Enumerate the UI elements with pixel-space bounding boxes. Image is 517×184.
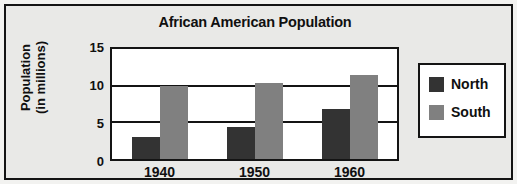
chart-legend: North South	[418, 63, 506, 138]
bar-north-1950	[227, 127, 255, 159]
legend-item-north: North	[429, 77, 488, 92]
legend-item-south: South	[429, 105, 491, 120]
x-axis-ticks: 1940 1950 1960	[110, 163, 399, 184]
bar-south-1940	[160, 86, 188, 159]
legend-label-south: South	[451, 105, 491, 120]
legend-label-north: North	[451, 77, 488, 92]
y-tick-label: 0	[64, 155, 104, 168]
y-axis-ticks: 15 10 5 0	[62, 47, 104, 161]
chart-panel: African American Population Population (…	[4, 4, 513, 180]
chart-figure: African American Population Population (…	[0, 0, 517, 184]
y-axis-title-line1: Population	[19, 18, 34, 138]
bar-south-1960	[350, 75, 378, 159]
legend-swatch-north-icon	[429, 77, 444, 92]
bar-south-1950	[255, 83, 283, 159]
x-tick-label: 1950	[225, 163, 285, 181]
bar-north-1960	[322, 109, 350, 159]
bars-layer	[112, 49, 397, 159]
y-tick-label: 15	[64, 41, 104, 54]
bar-north-1940	[132, 137, 160, 159]
x-tick-label: 1960	[320, 163, 380, 181]
x-tick-label: 1940	[130, 163, 190, 181]
legend-swatch-south-icon	[429, 105, 444, 120]
chart-title: African American Population	[110, 14, 400, 30]
y-tick-label: 10	[64, 79, 104, 92]
y-axis-title: Population (in millions)	[19, 18, 48, 138]
plot-inner	[112, 49, 397, 159]
y-axis-title-line2: (in millions)	[33, 18, 48, 138]
plot-area	[110, 47, 399, 161]
y-tick-label: 5	[64, 117, 104, 130]
